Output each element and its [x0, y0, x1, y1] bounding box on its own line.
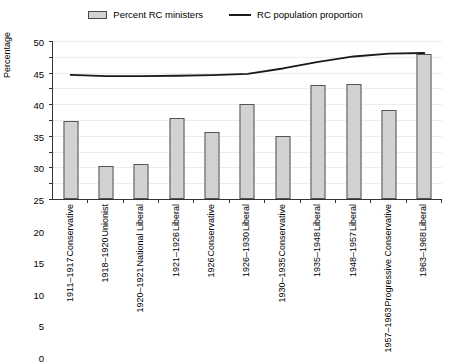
- y-tick-label: 45: [33, 68, 44, 79]
- bar: [417, 54, 432, 199]
- x-axis-label: 1948–1957Liberal: [348, 204, 358, 277]
- x-label-party: Conservative: [206, 204, 216, 257]
- y-tick-label: 10: [33, 289, 44, 300]
- x-label-slot: 1921–1926Liberal: [158, 202, 193, 332]
- x-label-party: Unionist: [100, 204, 110, 237]
- x-axis-label: 1911–1917Conservative: [65, 204, 75, 302]
- x-label-slot: 1926–1930Liberal: [229, 202, 264, 332]
- y-tick-label: 15: [33, 258, 44, 269]
- x-axis-label: 1918–1920Unionist: [100, 204, 110, 283]
- x-label-party: Liberal: [312, 204, 322, 231]
- y-tick-label: 30: [33, 163, 44, 174]
- x-axis-label: 1963–1968Liberal: [418, 204, 428, 277]
- x-axis-label: 1920–1921National Liberal: [135, 204, 145, 313]
- bar-slot: [159, 41, 194, 199]
- x-label-slot: 1926Conservative: [193, 202, 228, 332]
- x-label-party: Liberal: [241, 204, 251, 231]
- bar-slot: [53, 41, 88, 199]
- x-label-period: 1918–1920: [100, 238, 110, 283]
- x-label-period: 1926: [206, 258, 216, 278]
- legend-bar-swatch-icon: [88, 11, 107, 19]
- x-axis-label: 1921–1926Liberal: [171, 204, 181, 277]
- x-axis-label: 1935–1948Liberal: [312, 204, 322, 277]
- x-label-party: National Liberal: [135, 204, 145, 267]
- y-tick-label: 5: [39, 321, 44, 332]
- x-label-period: 1963–1968: [418, 232, 428, 277]
- x-axis-label: 1957–1963Progressive Conservative: [383, 204, 393, 353]
- x-label-party: Conservative: [65, 204, 75, 257]
- plot-area: 05101520253035404550: [52, 41, 442, 200]
- y-tick-mark: 0: [49, 199, 53, 200]
- bar-slot: [371, 41, 406, 199]
- x-label-period: 1921–1926: [171, 232, 181, 277]
- legend-line-swatch-icon: [229, 14, 251, 16]
- bar-slot: [336, 41, 371, 199]
- x-label-period: 1920–1921: [135, 268, 145, 313]
- bar: [311, 85, 326, 199]
- x-label-party: Conservative: [277, 204, 287, 257]
- y-tick-label: 25: [33, 195, 44, 206]
- bar: [63, 121, 78, 199]
- bar-series: [53, 41, 442, 199]
- x-label-period: 1911–1917: [65, 258, 75, 302]
- x-axis-label: 1930–1935Conservative: [277, 204, 287, 303]
- x-label-slot: 1920–1921National Liberal: [123, 202, 158, 332]
- y-tick-label: 50: [33, 37, 44, 48]
- bar: [240, 104, 255, 199]
- x-label-slot: 1918–1920Unionist: [87, 202, 122, 332]
- x-label-period: 1957–1963: [383, 308, 393, 353]
- y-tick-label: 35: [33, 131, 44, 142]
- x-label-period: 1935–1948: [312, 232, 322, 277]
- bar-slot: [265, 41, 300, 199]
- x-label-party: Liberal: [348, 204, 358, 231]
- bar-slot: [407, 41, 442, 199]
- legend-entry-bars: Percent RC ministers: [88, 10, 203, 20]
- x-label-slot: 1957–1963Progressive Conservative: [370, 202, 405, 332]
- x-label-slot: 1911–1917Conservative: [52, 202, 87, 332]
- bar: [205, 132, 220, 199]
- bar: [275, 136, 290, 199]
- bar: [134, 164, 149, 199]
- x-label-period: 1948–1957: [348, 232, 358, 277]
- chart-legend: Percent RC ministers RC population propo…: [0, 10, 451, 20]
- x-axis-label: 1926–1930Liberal: [241, 204, 251, 277]
- x-axis-labels: 1911–1917Conservative1918–1920Unionist19…: [52, 202, 441, 332]
- legend-label-bars: Percent RC ministers: [113, 10, 203, 20]
- y-tick-label: 20: [33, 226, 44, 237]
- bar-slot: [124, 41, 159, 199]
- y-axis-title: Percentage: [2, 32, 12, 78]
- x-label-party: Liberal: [418, 204, 428, 231]
- x-label-period: 1926–1930: [241, 232, 251, 277]
- x-label-party: Liberal: [171, 204, 181, 231]
- bar-slot: [301, 41, 336, 199]
- bar: [381, 110, 396, 199]
- legend-label-line: RC population proportion: [257, 10, 363, 20]
- x-axis-label: 1926Conservative: [206, 204, 216, 278]
- x-tick-mark: [441, 199, 442, 203]
- x-label-slot: 1935–1948Liberal: [300, 202, 335, 332]
- bar: [346, 84, 361, 199]
- y-tick-label: 0: [39, 353, 44, 364]
- bar-slot: [230, 41, 265, 199]
- y-tick-label: 40: [33, 100, 44, 111]
- x-label-party: Progressive Conservative: [383, 204, 393, 307]
- legend-entry-line: RC population proportion: [229, 10, 363, 20]
- x-label-slot: 1948–1957Liberal: [335, 202, 370, 332]
- x-label-period: 1930–1935: [277, 258, 287, 303]
- bar: [99, 166, 114, 199]
- x-label-slot: 1963–1968Liberal: [406, 202, 441, 332]
- bar-slot: [194, 41, 229, 199]
- bar-slot: [88, 41, 123, 199]
- bar: [169, 118, 184, 199]
- x-label-slot: 1930–1935Conservative: [264, 202, 299, 332]
